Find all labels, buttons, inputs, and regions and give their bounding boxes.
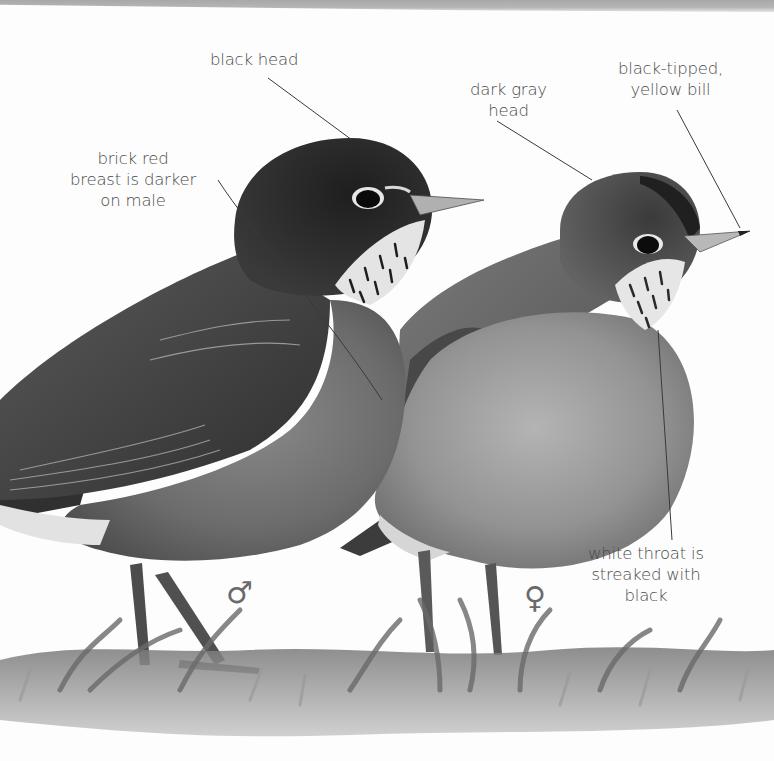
leader-dark-gray-head	[497, 121, 592, 180]
label-breast: brick red breast is darker on male	[70, 148, 196, 211]
label-line: brick red	[70, 148, 196, 169]
grass-ground	[0, 600, 774, 736]
label-dark-gray-head: dark gray head	[470, 79, 547, 121]
label-line: dark gray	[470, 79, 547, 100]
label-black-head: black head	[210, 49, 298, 70]
label-line: black	[588, 585, 704, 606]
label-throat: white throat is streaked with black	[588, 543, 704, 606]
female-symbol-icon: ♀	[524, 583, 546, 613]
label-line: yellow bill	[618, 79, 723, 100]
label-line: black-tipped,	[618, 58, 723, 79]
leader-black-head	[268, 78, 352, 140]
label-line: white throat is	[588, 543, 704, 564]
label-line: black head	[210, 49, 298, 70]
label-line: breast is darker	[70, 169, 196, 190]
illustration-canvas: black head dark gray head black-tipped, …	[0, 0, 774, 761]
label-line: streaked with	[588, 564, 704, 585]
label-line: head	[470, 100, 547, 121]
male-symbol-icon: ♂	[226, 578, 253, 608]
robins-illustration	[0, 0, 774, 761]
label-bill: black-tipped, yellow bill	[618, 58, 723, 100]
label-line: on male	[70, 190, 196, 211]
